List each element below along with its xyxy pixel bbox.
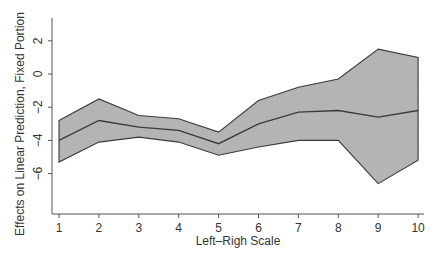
y-tick-label: −6 — [31, 166, 45, 180]
x-tick-label: 3 — [135, 221, 142, 235]
chart-canvas: 20−2−4−6 12345678910 Left–Righ Scale Eff… — [0, 0, 445, 259]
y-tick-label: 0 — [31, 70, 45, 77]
x-tick-label: 1 — [56, 221, 63, 235]
x-tick-label: 6 — [255, 221, 262, 235]
confidence-band — [59, 49, 418, 184]
x-tick-label: 5 — [215, 221, 222, 235]
x-tick-label: 4 — [175, 221, 182, 235]
x-tick-label: 8 — [335, 221, 342, 235]
x-axis-title: Left–Righ Scale — [196, 234, 281, 248]
y-axis-title: Effects on Linear Prediction, Fixed Port… — [13, 12, 27, 236]
x-tick-label: 9 — [375, 221, 382, 235]
y-tick-label: −2 — [31, 100, 45, 114]
x-tick-label: 10 — [411, 221, 425, 235]
x-axis-ticks: 12345678910 — [56, 214, 425, 235]
y-tick-label: 2 — [31, 37, 45, 44]
x-tick-label: 7 — [295, 221, 302, 235]
y-tick-label: −4 — [31, 133, 45, 147]
y-axis-ticks: 20−2−4−6 — [31, 37, 52, 180]
x-tick-label: 2 — [96, 221, 103, 235]
confidence-band-area — [59, 49, 418, 184]
